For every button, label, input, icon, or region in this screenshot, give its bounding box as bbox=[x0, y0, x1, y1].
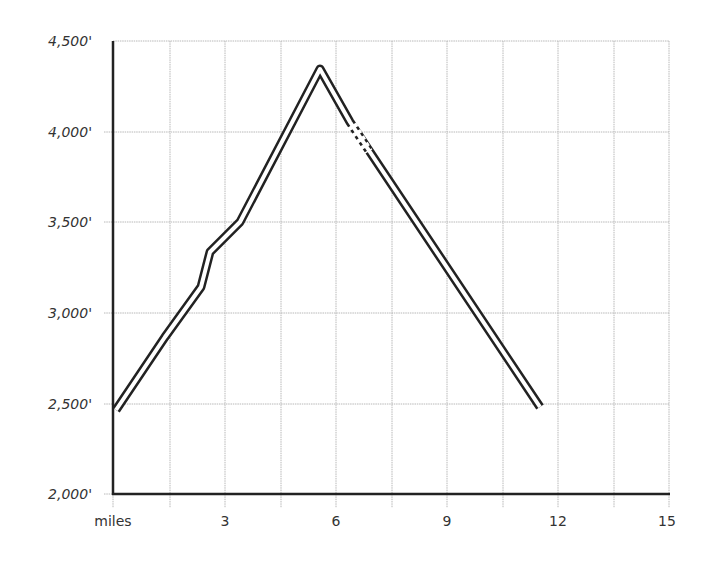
y-tick-2000: 2,000' bbox=[48, 486, 92, 502]
elevation-trail bbox=[116, 69, 540, 410]
x-tick-6: 6 bbox=[332, 513, 341, 529]
y-axis-labels: 4,500' 4,000' 3,500' 3,000' 2,500' 2,000… bbox=[48, 33, 92, 502]
x-axis-labels: miles 3 6 9 12 15 bbox=[94, 513, 676, 529]
x-tick-3: 3 bbox=[221, 513, 230, 529]
elevation-chart: 4,500' 4,000' 3,500' 3,000' 2,500' 2,000… bbox=[0, 0, 706, 561]
y-tick-3500: 3,500' bbox=[48, 214, 92, 230]
y-tick-4500: 4,500' bbox=[48, 33, 92, 49]
x-tick-12: 12 bbox=[549, 513, 567, 529]
y-tick-4000: 4,000' bbox=[48, 124, 92, 140]
axes bbox=[112, 41, 670, 495]
x-tick-9: 9 bbox=[443, 513, 452, 529]
x-tick-15: 15 bbox=[658, 513, 676, 529]
grid bbox=[104, 41, 669, 508]
x-axis-title: miles bbox=[94, 513, 131, 529]
y-tick-2500: 2,500' bbox=[48, 396, 92, 412]
y-tick-3000: 3,000' bbox=[48, 305, 92, 321]
